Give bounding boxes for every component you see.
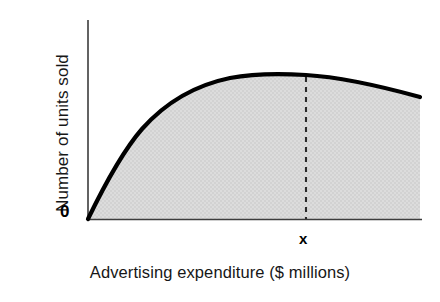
x-axis-tick-label-optimum: x: [299, 231, 307, 246]
x-axis-title: Advertising expenditure ($ millions): [0, 262, 440, 282]
area-fill: [88, 74, 420, 219]
origin-label: 0: [60, 203, 69, 220]
advertising-sales-figure: Number of units sold 0 x Advertising exp…: [0, 0, 440, 302]
y-axis-title: Number of units sold: [50, 12, 76, 212]
